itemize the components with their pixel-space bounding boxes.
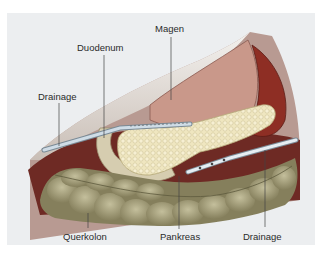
label-pankreas: Pankreas: [160, 231, 200, 242]
label-drainage-left: Drainage: [38, 91, 77, 102]
label-drainage-right: Drainage: [243, 231, 282, 242]
label-querkolon: Querkolon: [63, 231, 107, 242]
label-magen: Magen: [155, 23, 184, 34]
label-duodenum: Duodenum: [77, 42, 123, 53]
anatomical-illustration: [0, 0, 321, 253]
